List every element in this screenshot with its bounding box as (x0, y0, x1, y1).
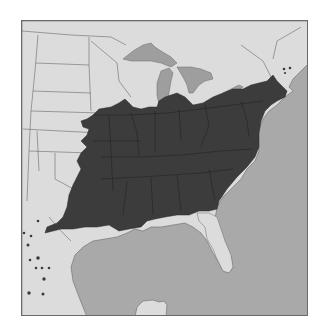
map-svg (22, 21, 308, 316)
range-map (21, 20, 308, 316)
